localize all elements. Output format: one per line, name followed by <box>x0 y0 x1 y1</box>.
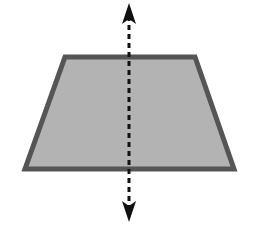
arrowhead-down-icon <box>122 201 136 222</box>
trapezoid-diagram <box>0 0 271 251</box>
figure-canvas <box>0 0 271 251</box>
